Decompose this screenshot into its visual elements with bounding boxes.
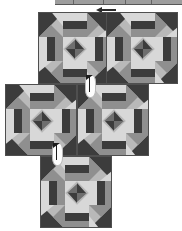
pin-head	[53, 143, 60, 148]
edge-rail-bottom	[102, 133, 126, 156]
center-pinwheel	[102, 109, 126, 133]
corner-flying-geese-br	[126, 133, 149, 156]
pin-lower-icon[interactable]	[52, 142, 61, 164]
quilt-diagram-canvas	[0, 0, 182, 231]
corner-flying-geese-tr	[155, 13, 178, 37]
arrow-shaft	[101, 9, 116, 11]
edge-rail-left	[78, 109, 102, 133]
edge-rail-left	[39, 37, 63, 61]
corner-flying-geese-bl	[78, 133, 102, 156]
strip-seam	[151, 0, 152, 4]
strip-seam	[125, 0, 126, 4]
block-middle-left[interactable]	[5, 84, 77, 156]
edge-rail-left	[107, 37, 131, 61]
corner-flying-geese-bl	[107, 61, 131, 84]
edge-rail-right	[54, 109, 77, 133]
block-top-left[interactable]	[38, 12, 110, 84]
corner-flying-geese-tr	[126, 85, 149, 109]
strip-seam	[103, 0, 104, 4]
cropped-strip-above	[55, 0, 182, 5]
pin-head	[86, 75, 93, 80]
block-bottom[interactable]	[40, 156, 112, 228]
center-pinwheel	[65, 181, 89, 205]
corner-flying-geese-tr	[89, 157, 112, 181]
center-pinwheel	[63, 37, 87, 61]
center-pinwheel	[30, 109, 54, 133]
edge-rail-bottom	[65, 205, 89, 228]
edge-rail-left	[6, 109, 30, 133]
edge-rail-top	[63, 13, 87, 37]
edge-rail-top	[131, 13, 155, 37]
edge-rail-top	[30, 85, 54, 109]
corner-flying-geese-tl	[107, 13, 131, 37]
corner-flying-geese-bl	[6, 133, 30, 156]
strip-seam	[73, 0, 74, 4]
edge-rail-bottom	[30, 133, 54, 156]
edge-rail-left	[41, 181, 65, 205]
pin-upper-icon[interactable]	[85, 74, 94, 96]
corner-flying-geese-tl	[6, 85, 30, 109]
corner-flying-geese-bl	[39, 61, 63, 84]
edge-rail-bottom	[63, 61, 87, 84]
edge-rail-bottom	[131, 61, 155, 84]
corner-flying-geese-tr	[54, 85, 77, 109]
center-pinwheel	[131, 37, 155, 61]
edge-rail-top	[65, 157, 89, 181]
edge-rail-right	[89, 181, 112, 205]
corner-flying-geese-tl	[39, 13, 63, 37]
corner-flying-geese-bl	[41, 205, 65, 228]
edge-rail-right	[126, 109, 149, 133]
edge-rail-right	[155, 37, 178, 61]
edge-rail-top	[102, 85, 126, 109]
corner-flying-geese-br	[89, 205, 112, 228]
block-top-right[interactable]	[106, 12, 178, 84]
corner-flying-geese-br	[155, 61, 178, 84]
